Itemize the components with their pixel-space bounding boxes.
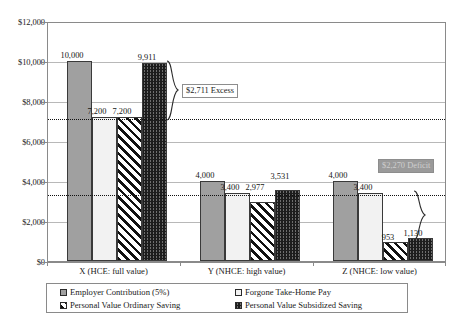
plot-area <box>47 22 446 262</box>
legend-swatch-checker-icon <box>235 302 242 309</box>
y-tick-label-12000: $12,000 <box>18 18 45 27</box>
legend: Employer Contribution (5%) Forgone Take-… <box>46 283 408 313</box>
legend-swatch-solid-gray-icon <box>60 289 67 296</box>
value-label-employer-z: 4,000 <box>322 171 354 180</box>
bar-personal-ordinary-y <box>250 202 275 262</box>
y-tick-label-10000: $10,000 <box>18 58 45 67</box>
bar-employer-contribution-y <box>200 181 225 261</box>
value-label-employer-y: 4,000 <box>189 171 221 180</box>
value-label-subsidized-x: 9,911 <box>131 53 163 62</box>
legend-label-employer-contribution: Employer Contribution (5%) <box>70 287 169 298</box>
legend-item-personal-value-subsidized-saving[interactable]: Personal Value Subsidized Saving <box>235 300 362 311</box>
bar-forgone-pay-x <box>92 117 117 261</box>
value-label-ordinary-y: 2,977 <box>239 183 271 192</box>
value-label-subsidized-y: 3,531 <box>264 172 296 181</box>
deficit-callout: $2,270 Deficit <box>378 159 434 173</box>
bar-personal-subsidized-y <box>275 190 300 261</box>
value-label-ordinary-x: 7,200 <box>106 107 138 116</box>
excess-callout: $2,711 Excess <box>182 84 238 98</box>
reference-line-7200 <box>48 119 445 120</box>
legend-label-personal-value-ordinary-saving: Personal Value Ordinary Saving <box>70 300 180 311</box>
bar-forgone-pay-z <box>358 193 383 261</box>
value-label-employer-x: 10,000 <box>56 51 88 60</box>
gridline-8000 <box>48 102 445 103</box>
legend-swatch-light-icon <box>235 289 242 296</box>
excess-brace <box>165 60 183 122</box>
x-category-label-y: Y (NHCE: high value) <box>180 266 313 277</box>
legend-item-forgone-take-home-pay[interactable]: Forgone Take-Home Pay <box>235 287 331 298</box>
bar-personal-ordinary-x <box>117 117 142 261</box>
bar-chart: $12,000 $10,000 $8,000 $6,000 $4,000 $2,… <box>0 0 454 321</box>
legend-item-employer-contribution[interactable]: Employer Contribution (5%) <box>60 287 169 298</box>
x-category-label-z: Z (NHCE: low value) <box>313 266 446 277</box>
x-category-label-x: X (HCE: full value) <box>47 266 180 277</box>
legend-label-forgone-take-home-pay: Forgone Take-Home Pay <box>245 287 331 298</box>
deficit-brace <box>412 190 430 242</box>
gridline-10000 <box>48 62 445 63</box>
bar-forgone-pay-y <box>225 193 250 261</box>
legend-swatch-diagonal-icon <box>60 302 67 309</box>
bar-personal-subsidized-x <box>142 63 167 261</box>
legend-item-personal-value-ordinary-saving[interactable]: Personal Value Ordinary Saving <box>60 300 180 311</box>
bar-employer-contribution-x <box>67 61 92 261</box>
bar-personal-ordinary-z <box>383 242 408 261</box>
x-axis-line <box>47 262 446 263</box>
legend-label-personal-value-subsidized-saving: Personal Value Subsidized Saving <box>245 300 362 311</box>
reference-line-3400 <box>48 195 445 196</box>
bar-employer-contribution-z <box>333 181 358 261</box>
value-label-forgone-z: 3,400 <box>347 183 379 192</box>
